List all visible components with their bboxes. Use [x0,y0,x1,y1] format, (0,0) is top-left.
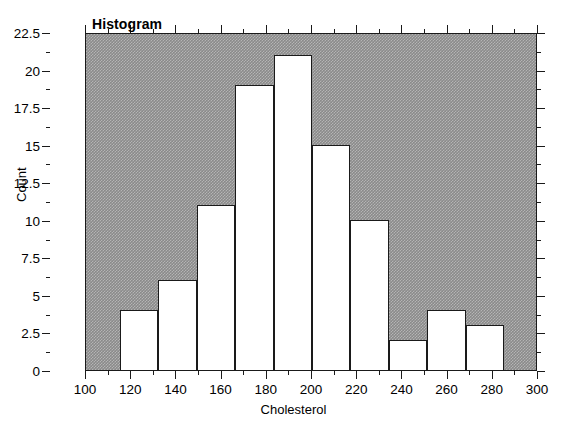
y-axis-minor-tick-right [537,315,541,316]
y-axis-tick-label: 10 [25,213,40,228]
y-axis-tick-right [537,146,545,147]
x-axis-minor-tick-top [288,29,289,33]
histogram-bar [389,340,427,370]
y-axis-minor-tick [46,277,50,278]
y-axis-tick-right [537,71,545,72]
histogram-bar [235,85,273,370]
x-axis-minor-tick-top [514,29,515,33]
histogram-bar [274,55,312,370]
x-axis-tick-label: 260 [435,382,458,397]
x-axis-tick [85,371,86,379]
x-axis-minor-tick-top [469,29,470,33]
chart-title: Histogram [92,16,162,32]
y-axis-tick [42,183,50,184]
y-axis-minor-tick [46,164,50,165]
y-axis-minor-tick-right [537,240,541,241]
x-axis-minor-tick-top [198,29,199,33]
y-axis-tick-label: 20 [25,63,40,78]
x-axis-tick-label: 120 [119,382,142,397]
x-axis-minor-tick-top [334,29,335,33]
y-axis-minor-tick-right [537,89,541,90]
x-axis-tick-label: 300 [526,382,549,397]
y-axis-minor-tick [46,52,50,53]
x-axis-tick-top [537,25,538,33]
y-axis-tick-label: 12.5 [14,176,40,191]
x-axis-tick [221,371,222,379]
y-axis-minor-tick-right [537,52,541,53]
y-axis-tick-label: 7.5 [21,251,40,266]
x-axis-tick [266,371,267,379]
y-axis-tick-right [537,33,545,34]
y-axis-tick-label: 0 [32,364,40,379]
y-axis-tick-right [537,221,545,222]
x-axis-tick [447,371,448,379]
x-axis-minor-tick-top [379,29,380,33]
x-axis-tick [537,371,538,379]
y-axis-minor-tick [46,89,50,90]
y-axis-minor-tick-right [537,202,541,203]
y-axis-tick [42,108,50,109]
x-axis-minor-tick [288,371,289,375]
y-axis-tick [42,71,50,72]
x-axis-tick-top [492,25,493,33]
y-axis-tick-label: 5 [32,288,40,303]
y-axis-tick [42,33,50,34]
x-axis-tick-top [311,25,312,33]
y-axis-minor-tick [46,352,50,353]
y-axis-minor-tick-right [537,127,541,128]
y-axis-tick-right [537,333,545,334]
x-axis-minor-tick [243,371,244,375]
y-axis-tick-label: 22.5 [14,26,40,41]
y-axis-tick-right [537,108,545,109]
histogram-bar [427,310,465,370]
x-axis-tick-label: 200 [300,382,323,397]
x-axis-minor-tick [108,371,109,375]
x-axis-tick-top [447,25,448,33]
x-axis-tick-top [356,25,357,33]
histogram-bar [466,325,504,370]
x-axis-tick-label: 100 [74,382,97,397]
x-axis-tick-top [401,25,402,33]
x-axis-tick-label: 160 [209,382,232,397]
x-axis-tick-label: 180 [255,382,278,397]
x-axis-minor-tick [469,371,470,375]
x-axis-tick [401,371,402,379]
x-axis-minor-tick [424,371,425,375]
x-axis-tick [130,371,131,379]
x-axis-minor-tick-top [243,29,244,33]
y-axis-minor-tick-right [537,352,541,353]
y-axis-tick [42,146,50,147]
histogram-figure: Histogram Count Cholesterol 02.557.51012… [0,0,587,435]
histogram-bar [197,205,235,370]
y-axis-tick-right [537,258,545,259]
y-axis-minor-tick [46,240,50,241]
y-axis-minor-tick-right [537,164,541,165]
histogram-bar [120,310,158,370]
y-axis-tick [42,221,50,222]
x-axis-minor-tick [334,371,335,375]
x-axis-tick-top [85,25,86,33]
y-axis-tick-right [537,371,545,372]
x-axis-tick [492,371,493,379]
y-axis-tick [42,258,50,259]
x-axis-tick-top [175,25,176,33]
x-axis-minor-tick [198,371,199,375]
x-axis-tick-top [221,25,222,33]
y-axis-tick-right [537,296,545,297]
x-axis-minor-tick-top [424,29,425,33]
x-axis-tick [311,371,312,379]
y-axis-tick [42,333,50,334]
y-axis-minor-tick [46,202,50,203]
y-axis-minor-tick [46,127,50,128]
x-axis-tick-label: 220 [345,382,368,397]
x-axis-title: Cholesterol [0,402,587,417]
histogram-bar [158,280,196,370]
x-axis-tick [175,371,176,379]
plot-area [85,33,537,371]
histogram-bar [350,220,388,370]
y-axis-tick [42,296,50,297]
y-axis-tick [42,371,50,372]
x-axis-tick [356,371,357,379]
y-axis-minor-tick [46,315,50,316]
x-axis-tick-label: 140 [164,382,187,397]
